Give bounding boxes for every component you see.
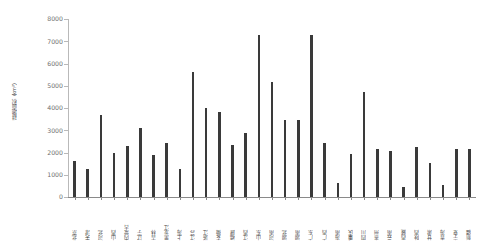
x-tick-label: 上海: [177, 200, 183, 240]
y-tick-label: 3000: [47, 127, 63, 134]
x-tick-label: 陕西: [414, 200, 420, 240]
x-tick-label: 天津: [85, 200, 91, 240]
bar: [376, 149, 379, 197]
x-tick-label: 湖南: [295, 200, 301, 240]
bar: [244, 133, 247, 197]
x-tick-label: 云南: [387, 200, 393, 240]
y-tick-label: 8000: [47, 15, 63, 22]
x-tick-label: 江西: [243, 200, 249, 240]
x-tick-label: 甘肃: [427, 200, 433, 240]
bar: [429, 163, 432, 197]
y-tick-label: 7000: [47, 38, 63, 45]
x-tick-label: 北京: [72, 200, 78, 240]
bar: [86, 169, 89, 197]
bar: [100, 115, 103, 197]
bar: [179, 169, 182, 197]
bar: [284, 120, 287, 197]
x-tick-label: 内蒙古: [124, 200, 130, 240]
bar: [165, 143, 168, 198]
bar: [192, 72, 195, 197]
bar: [231, 145, 234, 197]
bar: [468, 149, 471, 197]
bar: [323, 143, 326, 197]
x-tick-label: 西藏: [401, 200, 407, 240]
bar: [350, 154, 353, 197]
x-tick-label: 山东: [256, 200, 262, 240]
x-tick-label: 四川: [361, 200, 367, 240]
bar: [363, 92, 366, 197]
bar: [73, 161, 76, 197]
x-tick-label: 河北: [98, 200, 104, 240]
bar-chart: 耕地面积（km²） 010002000300040005000600070008…: [0, 0, 484, 242]
x-tick-label: 青海: [440, 200, 446, 240]
x-tick-label: 山西: [111, 200, 117, 240]
y-tick-label: 6000: [47, 60, 63, 67]
bar: [152, 155, 155, 197]
y-tick-label: 4000: [47, 104, 63, 111]
y-tick-label: 1000: [47, 171, 63, 178]
x-tick-label: 海南: [335, 200, 341, 240]
x-tick-label: 安徽: [216, 200, 222, 240]
bar: [337, 183, 340, 197]
x-tick-label: 重庆: [348, 200, 354, 240]
bar: [310, 35, 313, 197]
x-tick-label: 河南: [269, 200, 275, 240]
y-tick-label: 5000: [47, 82, 63, 89]
plot-area: 010002000300040005000600070008000: [68, 19, 476, 197]
bar: [415, 147, 418, 197]
y-tick-label: 2000: [47, 149, 63, 156]
y-axis-title: 耕地面积（km²）: [12, 50, 26, 150]
bar: [402, 187, 405, 197]
bar: [139, 128, 142, 197]
y-tick-mark: [64, 197, 68, 198]
bar: [442, 185, 445, 197]
x-axis-labels: 北京天津河北山西内蒙古辽宁吉林黑龙江上海江苏浙江安徽福建江西山东河南湖北湖南广东…: [68, 200, 476, 242]
x-tick-label: 广西: [322, 200, 328, 240]
x-tick-label: 贵州: [374, 200, 380, 240]
bar: [113, 153, 116, 198]
bar: [297, 120, 300, 197]
x-tick-label: 福建: [230, 200, 236, 240]
x-tick-label: 湖北: [282, 200, 288, 240]
x-tick-label: 辽宁: [137, 200, 143, 240]
bar: [126, 146, 129, 197]
bar: [271, 82, 274, 197]
bar: [218, 112, 221, 197]
bar: [455, 149, 458, 197]
x-tick-label: 宁夏: [453, 200, 459, 240]
bar: [205, 108, 208, 197]
y-tick-label: 0: [59, 193, 63, 200]
x-tick-label: 浙江: [203, 200, 209, 240]
x-tick-label: 江苏: [190, 200, 196, 240]
bars-layer: [68, 19, 476, 197]
x-tick-label: 黑龙江: [164, 200, 170, 240]
x-tick-label: 吉林: [151, 200, 157, 240]
bar: [389, 151, 392, 197]
bar: [258, 35, 261, 197]
x-tick-label: 新疆: [466, 200, 472, 240]
x-tick-label: 广东: [308, 200, 314, 240]
